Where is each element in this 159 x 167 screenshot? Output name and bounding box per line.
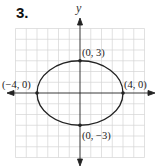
point-right <box>121 91 125 95</box>
label-top: (0, 3) <box>82 47 105 59</box>
ellipse-graph: y (0, 3) (4, 0) (−4, 0) (0, −3) <box>0 0 159 167</box>
point-top <box>78 59 82 63</box>
x-axis-right-arrow-icon <box>148 91 155 96</box>
x-axis-left-arrow-icon <box>7 91 14 96</box>
y-axis-down-arrow-icon <box>78 159 83 166</box>
label-bottom: (0, −3) <box>82 130 111 142</box>
point-left <box>35 91 39 95</box>
label-right: (4, 0) <box>124 79 147 91</box>
label-left: (−4, 0) <box>2 79 31 91</box>
point-bottom <box>78 123 82 127</box>
axes <box>7 18 155 166</box>
y-axis-label: y <box>75 1 82 15</box>
y-axis-up-arrow-icon <box>78 18 83 25</box>
